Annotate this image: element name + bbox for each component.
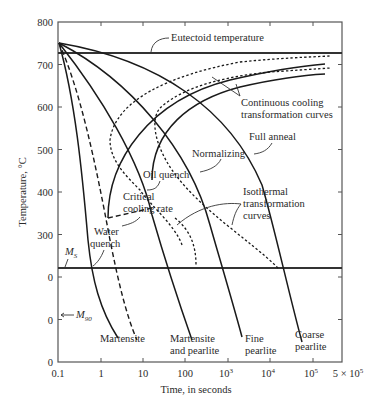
y-label-200: 0 — [48, 272, 53, 283]
eutectoid-leader — [151, 38, 169, 52]
water-quench-curve — [59, 43, 118, 338]
ms-leader — [65, 259, 68, 267]
fine-pearlite-label-1: Fine — [245, 333, 264, 344]
eutectoid-label: Eutectoid temperature — [171, 32, 264, 43]
coarse-pearlite-label-2: pearlite — [295, 341, 327, 352]
coarse-pearlite-label-1: Coarse — [295, 329, 324, 340]
x-axis-title: Time, in seconds — [160, 384, 231, 395]
martensite-label: Martensite — [100, 333, 145, 344]
oil-quench-leader — [147, 181, 160, 190]
m90-label: M90 — [75, 309, 92, 323]
water-quench-label-1: Water — [94, 226, 119, 237]
cct-label-1: Continuous cooling — [241, 97, 324, 108]
cct-label-2: transformation curves — [241, 109, 333, 120]
normalizing-leader — [200, 159, 221, 172]
x-tick-labels: 0.1 1 10 100 103 104 105 5 × 105 — [51, 367, 363, 379]
y-axis-title: Temperature, °C — [17, 157, 28, 226]
y-label-0: 0 — [48, 357, 53, 368]
mart-pearlite-label-2: and pearlite — [170, 345, 220, 356]
x-label-10: 10 — [138, 368, 149, 379]
oil-quench-label: Oil quench — [143, 169, 190, 180]
iso-label-3: curves — [243, 210, 270, 221]
y-label-500: 500 — [37, 145, 53, 156]
iso-tail-short — [175, 218, 196, 265]
y-label-700: 700 — [37, 60, 53, 71]
x-label-1e4: 104 — [261, 367, 276, 379]
full-anneal-leader — [254, 143, 272, 154]
critical-leader — [122, 217, 140, 226]
x-label-100: 100 — [177, 368, 193, 379]
y-label-300: 300 — [37, 230, 53, 241]
water-quench-leader — [93, 250, 104, 266]
x-label-0.1: 0.1 — [51, 368, 64, 379]
x-label-1e5: 105 — [304, 367, 319, 379]
cct-diagram: 800 700 600 500 400 300 0 0 0 Temperatur… — [0, 0, 378, 404]
critical-label-1: Critical — [123, 191, 155, 202]
iso-label-1: Isothermal — [243, 186, 288, 197]
water-quench-label-2: quench — [90, 238, 121, 249]
normalizing-label: Normalizing — [192, 148, 246, 159]
y-label-800: 800 — [37, 17, 53, 28]
y-label-100: 0 — [48, 315, 53, 326]
mart-pearlite-label-1: Martensite — [170, 333, 215, 344]
fine-pearlite-label-2: pearlite — [245, 345, 277, 356]
ms-label: MS — [64, 246, 78, 260]
y-tick-labels: 800 700 600 500 400 300 0 0 0 — [37, 17, 53, 368]
cct-leader — [212, 77, 240, 96]
x-label-5e5: 5 × 105 — [333, 367, 364, 379]
cct-finish-curve — [152, 74, 325, 180]
y-label-600: 600 — [37, 102, 53, 113]
x-label-1: 1 — [98, 368, 103, 379]
full-anneal-label: Full anneal — [249, 131, 296, 142]
y-label-400: 400 — [37, 187, 53, 198]
x-label-1e3: 103 — [219, 367, 234, 379]
iso-label-2: transformation — [243, 198, 306, 209]
critical-label-2: cooling rate — [123, 203, 173, 214]
m90-leader — [61, 313, 74, 317]
